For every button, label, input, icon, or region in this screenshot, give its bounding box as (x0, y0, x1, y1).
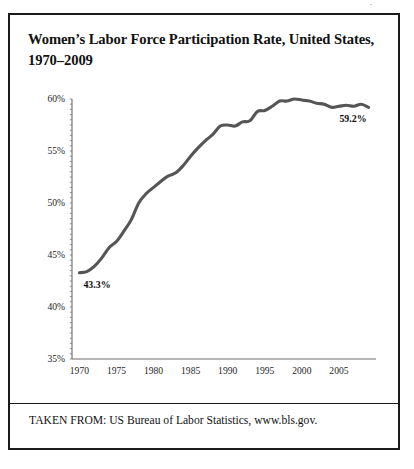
chart-svg: 35%40%45%50%55%60%1970197519801985199019… (28, 85, 384, 397)
y-axis-tick-label: 35% (47, 353, 65, 364)
y-axis-tick-label: 55% (47, 145, 65, 156)
y-axis-tick-label: 50% (47, 197, 65, 208)
x-axis-tick-label: 1975 (107, 365, 126, 376)
y-axis-tick-label: 45% (47, 249, 65, 260)
page-corner-mark: · (366, 0, 376, 9)
x-axis-tick-label: 1985 (181, 365, 200, 376)
data-point-annotation: 59.2% (339, 113, 366, 124)
line-chart: 35%40%45%50%55%60%1970197519801985199019… (28, 85, 384, 397)
data-series-line (79, 99, 368, 273)
x-axis-tick-label: 1995 (255, 365, 274, 376)
x-axis-tick-label: 2000 (292, 365, 311, 376)
y-axis-tick-label: 40% (47, 301, 65, 312)
x-axis-tick-label: 1980 (144, 365, 163, 376)
figure-container: Women’s Labor Force Participation Rate, … (8, 13, 400, 450)
figure-title: Women’s Labor Force Participation Rate, … (28, 29, 380, 70)
y-axis-tick-label: 60% (47, 93, 65, 104)
x-axis-tick-label: 1990 (218, 365, 237, 376)
source-divider (10, 403, 398, 404)
data-point-annotation: 43.3% (83, 279, 110, 290)
x-axis-tick-label: 2005 (329, 365, 348, 376)
x-axis-tick-label: 1970 (70, 365, 89, 376)
source-attribution: TAKEN FROM: US Bureau of Labor Statistic… (29, 413, 379, 428)
